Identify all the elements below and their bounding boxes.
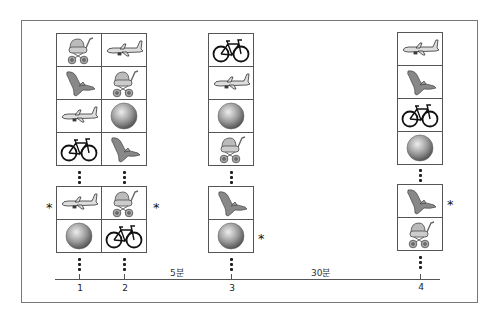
tick <box>231 274 232 280</box>
cell-col3-ball-starred <box>208 219 254 253</box>
bicycle-icon <box>59 134 99 164</box>
stroller-icon <box>400 219 440 249</box>
star-marker: * <box>153 201 160 214</box>
stroller-icon <box>104 68 144 98</box>
ellipsis-dots <box>230 171 233 186</box>
star-marker: * <box>258 232 265 245</box>
cell-col4-crocodile <box>397 65 443 99</box>
cell-col3-ball <box>208 99 254 133</box>
cell-col2-crocodile <box>101 132 147 166</box>
ellipsis-dots <box>230 258 233 273</box>
cell-col2-bicycle <box>101 219 147 253</box>
crocodile-icon <box>59 68 99 98</box>
airplane-icon <box>211 68 251 98</box>
time-axis <box>55 279 440 280</box>
tick-label-4: 4 <box>411 282 431 292</box>
cell-col2-stroller-starred <box>101 186 147 220</box>
cell-col1-crocodile <box>56 66 102 100</box>
airplane-icon <box>104 35 144 65</box>
ball-icon <box>104 101 144 131</box>
tick <box>79 274 80 280</box>
interval-label-30min: 30분 <box>311 266 330 279</box>
cell-col2-stroller <box>101 66 147 100</box>
cell-col2-airplane <box>101 33 147 67</box>
cell-col1-airplane <box>56 99 102 133</box>
tick-label-3: 3 <box>222 283 242 293</box>
ellipsis-dots <box>419 256 422 271</box>
tick <box>124 274 125 280</box>
cell-col1-bicycle <box>56 132 102 166</box>
tick-label-2: 2 <box>115 283 135 293</box>
stroller-icon <box>104 188 144 218</box>
ellipsis-dots <box>78 171 81 186</box>
bicycle-icon <box>400 100 440 130</box>
star-marker: * <box>46 201 53 214</box>
airplane-icon <box>400 34 440 64</box>
cell-col2-ball <box>101 99 147 133</box>
interval-label-5min: 5분 <box>170 266 184 279</box>
tick <box>420 274 421 280</box>
ellipsis-dots <box>78 258 81 273</box>
cell-col4-bicycle <box>397 98 443 132</box>
ellipsis-dots <box>419 169 422 184</box>
stroller-icon <box>211 134 251 164</box>
cell-col4-airplane <box>397 32 443 66</box>
cell-col1-ball <box>56 219 102 253</box>
crocodile-icon <box>400 67 440 97</box>
ellipsis-dots <box>123 171 126 186</box>
bicycle-icon <box>211 35 251 65</box>
airplane-icon <box>59 101 99 131</box>
tick-label-1: 1 <box>70 283 90 293</box>
ball-icon <box>400 133 440 163</box>
cell-col3-airplane <box>208 66 254 100</box>
cell-col1-airplane-starred <box>56 186 102 220</box>
ball-icon <box>211 101 251 131</box>
crocodile-icon <box>104 134 144 164</box>
cell-col4-ball <box>397 131 443 165</box>
star-marker: * <box>447 198 454 211</box>
ball-icon <box>59 221 99 251</box>
cell-col3-crocodile <box>208 186 254 220</box>
cell-col4-crocodile-starred <box>397 184 443 218</box>
bicycle-icon <box>104 221 144 251</box>
cell-col1-stroller <box>56 33 102 67</box>
cell-col3-bicycle <box>208 33 254 67</box>
cell-col4-stroller <box>397 217 443 251</box>
crocodile-icon <box>400 186 440 216</box>
airplane-icon <box>59 188 99 218</box>
ball-icon <box>211 221 251 251</box>
ellipsis-dots <box>123 258 126 273</box>
cell-col3-stroller <box>208 132 254 166</box>
stroller-icon <box>59 35 99 65</box>
crocodile-icon <box>211 188 251 218</box>
